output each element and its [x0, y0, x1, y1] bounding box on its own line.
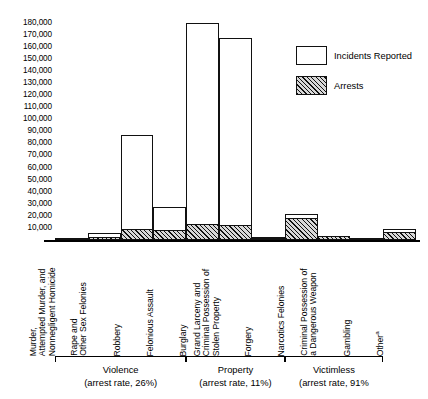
y-axis-tick-label: 110,000	[0, 103, 52, 111]
legend-item-arrests: Arrests	[296, 76, 412, 95]
category-label: Burglary	[178, 324, 187, 356]
category-label-line: Forgery	[244, 326, 253, 356]
category-label: Rape andOther Sex Felonies	[71, 282, 90, 356]
group-name: Violence	[55, 364, 186, 377]
y-axis-tick-label: 70,000	[0, 151, 52, 159]
y-axis-tick-label: 170,000	[0, 31, 52, 39]
category-label: Gambling	[342, 319, 351, 356]
legend-label-incidents: Incidents Reported	[334, 51, 412, 61]
legend-swatch-outline-icon	[296, 46, 327, 65]
bar-group	[153, 6, 186, 240]
x-axis-baseline	[44, 240, 420, 242]
y-axis-tick-label: 130,000	[0, 79, 52, 87]
legend-swatch-hatched-icon	[296, 76, 327, 95]
category-label-line: a Dangerous Weapon	[310, 269, 319, 356]
y-axis-tick-label: 30,000	[0, 200, 52, 208]
bar-group	[55, 6, 88, 240]
bar-group	[285, 6, 318, 240]
category-label-line: Robbery	[113, 324, 122, 356]
y-axis-tick-label: 100,000	[0, 115, 52, 123]
bar-group	[219, 6, 252, 240]
group-caption: Victimless(arrest rate, 91%	[285, 364, 383, 389]
y-axis-tick-label: 160,000	[0, 43, 52, 51]
category-label: Forgery	[244, 326, 253, 356]
group-arrest-rate: (arrest rate, 91%	[285, 377, 383, 390]
bar-chart: 180,000170,000160,000150,000140,000130,0…	[0, 0, 428, 399]
category-label-line: Narcotics Felonies	[277, 285, 286, 356]
y-axis-tick-label: 90,000	[0, 127, 52, 135]
group-caption: Violence(arrest rate, 26%)	[55, 364, 186, 389]
plot-area	[55, 6, 417, 240]
group-arrest-rate: (arrest rate, 11%)	[186, 377, 284, 390]
bar-group	[252, 6, 285, 240]
group-brackets: Violence(arrest rate, 26%)Property(arres…	[0, 356, 428, 399]
bar-group	[186, 6, 219, 240]
y-axis: 180,000170,000160,000150,000140,000130,0…	[0, 0, 52, 245]
category-label-line: Gambling	[342, 319, 351, 356]
group-name: Victimless	[285, 364, 383, 377]
y-axis-tick-label: 150,000	[0, 55, 52, 63]
footnote-marker: a	[372, 331, 379, 334]
category-label: Murder,Attempted Murder, andNonnegligent…	[28, 267, 56, 356]
y-axis-tick-label: 180,000	[0, 19, 52, 27]
bar-arrests	[219, 225, 252, 240]
group-bracket	[55, 356, 186, 362]
category-label-line: Stolen Property	[211, 269, 220, 356]
y-axis-tick-label: 60,000	[0, 164, 52, 172]
category-label-line: Nonnegligent Homicide	[47, 267, 56, 356]
y-axis-tick-label: 120,000	[0, 91, 52, 99]
category-label-line: Attempted Murder, and	[38, 267, 47, 356]
group-bracket	[285, 356, 383, 362]
group-name: Property	[186, 364, 284, 377]
bar-arrests	[186, 224, 219, 240]
bar-arrests	[285, 218, 318, 240]
bar-group	[88, 6, 121, 240]
category-label-line: Felonious Assault	[146, 289, 155, 356]
legend: Incidents Reported Arrests	[296, 46, 412, 106]
group-bracket	[186, 356, 284, 362]
legend-label-arrests: Arrests	[334, 81, 363, 91]
category-label-line: Othera	[371, 331, 384, 356]
category-label: Felonious Assault	[146, 289, 155, 356]
bar-group	[121, 6, 154, 240]
bar-group	[318, 6, 351, 240]
category-label-line: Criminal Possession of	[202, 269, 211, 356]
legend-item-incidents: Incidents Reported	[296, 46, 412, 65]
bar-incidents-reported	[186, 23, 219, 240]
bar-arrests	[383, 232, 416, 240]
bar-incidents-reported	[219, 38, 252, 240]
y-axis-tick-label: 20,000	[0, 212, 52, 220]
y-axis-tick-label: 10,000	[0, 224, 52, 232]
group-caption: Property(arrest rate, 11%)	[186, 364, 284, 389]
bar-group	[350, 6, 383, 240]
bar-arrests	[121, 229, 154, 240]
category-label-line: Other Sex Felonies	[80, 282, 89, 356]
category-label: Othera	[371, 331, 384, 356]
y-axis-tick-label: 40,000	[0, 188, 52, 196]
category-labels: Murder,Attempted Murder, andNonnegligent…	[0, 244, 428, 356]
bar-incidents-reported	[121, 135, 154, 240]
bar-arrests	[153, 230, 186, 240]
category-label-line: Burglary	[178, 324, 187, 356]
bar-group	[383, 6, 416, 240]
category-label: Grand Larceny andCriminal Possession ofS…	[192, 269, 220, 356]
category-label: Criminal Possession ofa Dangerous Weapon	[300, 269, 319, 356]
category-label: Narcotics Felonies	[277, 285, 286, 356]
category-label: Robbery	[113, 324, 122, 356]
y-axis-tick-label: 50,000	[0, 176, 52, 184]
y-axis-tick-label: 140,000	[0, 67, 52, 75]
y-axis-tick-label: 80,000	[0, 139, 52, 147]
group-arrest-rate: (arrest rate, 26%)	[55, 377, 186, 390]
